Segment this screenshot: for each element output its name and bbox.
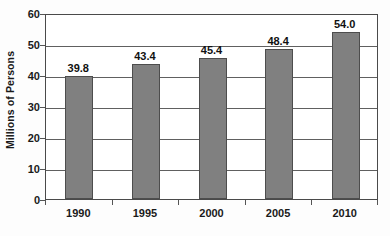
x-axis-tick-mark bbox=[178, 200, 179, 205]
bar-value-label: 45.4 bbox=[187, 45, 237, 56]
bar-value-label: 43.4 bbox=[120, 51, 170, 62]
bar-value-label: 48.4 bbox=[253, 36, 303, 47]
y-axis-tick-label: 30 bbox=[18, 102, 40, 113]
bar bbox=[199, 58, 227, 199]
plot-area bbox=[45, 14, 378, 200]
y-axis-tick-labels: 0102030405060 bbox=[14, 0, 40, 236]
x-axis-tick-label: 1995 bbox=[133, 206, 157, 221]
x-axis-tick-mark bbox=[112, 200, 113, 205]
y-axis-tick-label: 0 bbox=[18, 195, 40, 206]
x-axis-tick-label: 1990 bbox=[66, 206, 90, 221]
bar-chart: Millions of Persons 0102030405060 39.843… bbox=[0, 0, 390, 236]
x-axis-tick-mark bbox=[45, 200, 46, 205]
y-axis-tick-label: 50 bbox=[18, 40, 40, 51]
bar bbox=[65, 76, 93, 199]
bar-value-label: 54.0 bbox=[320, 19, 370, 30]
y-axis-tick-label: 40 bbox=[18, 71, 40, 82]
x-axis-tick-mark bbox=[245, 200, 246, 205]
y-axis-tick-label: 20 bbox=[18, 133, 40, 144]
x-axis-tick-mark bbox=[311, 200, 312, 205]
bar bbox=[265, 49, 293, 199]
bar bbox=[132, 64, 160, 199]
bar-value-label: 39.8 bbox=[53, 63, 103, 74]
x-axis-tick-label: 2005 bbox=[266, 206, 290, 221]
x-axis-tick-mark bbox=[377, 200, 378, 205]
y-axis-tick-label: 60 bbox=[18, 9, 40, 20]
y-axis-tick-label: 10 bbox=[18, 164, 40, 175]
bar bbox=[332, 32, 360, 199]
x-axis-tick-labels: 19901995200020052010 bbox=[45, 206, 378, 228]
x-axis-tick-label: 2000 bbox=[199, 206, 223, 221]
x-axis-tick-label: 2010 bbox=[332, 206, 356, 221]
